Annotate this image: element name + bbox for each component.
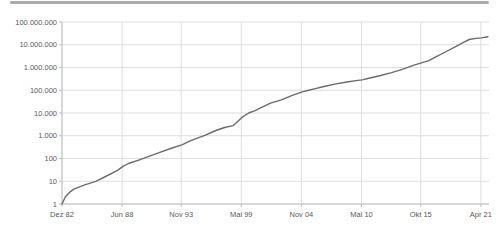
y-tick-label: 10 (49, 177, 57, 186)
y-tick-label: 10.000 (34, 109, 57, 118)
x-tick-label: Okt 15 (410, 210, 432, 219)
x-tick-label: Apr 21 (470, 210, 492, 219)
data-series-line (62, 37, 488, 204)
y-tick-label: 100.000 (30, 86, 57, 95)
x-tick-label: Nov 93 (169, 210, 193, 219)
x-tick-label: Jun 88 (111, 210, 134, 219)
log-line-chart: 1101001.00010.000100.0001.000.00010.000.… (0, 0, 501, 230)
x-tick-label: Nov 04 (290, 210, 314, 219)
gridlines (62, 22, 489, 204)
y-tick-label: 1.000 (38, 131, 57, 140)
chart-canvas: 1101001.00010.000100.0001.000.00010.000.… (0, 0, 501, 230)
y-tick-label: 100 (44, 154, 57, 163)
y-tick-label: 100.000.000 (15, 18, 57, 27)
y-tick-label: 10.000.000 (19, 40, 57, 49)
y-tick-label: 1 (53, 200, 57, 209)
x-tick-label: Mai 99 (230, 210, 253, 219)
y-tick-label: 1.000.000 (24, 63, 57, 72)
x-tick-label: Dez 82 (50, 210, 74, 219)
x-tick-label: Mai 10 (350, 210, 373, 219)
y-axis-labels: 1101001.00010.000100.0001.000.00010.000.… (15, 18, 57, 209)
x-axis-labels: Dez 82Jun 88Nov 93Mai 99Nov 04Mai 10Okt … (50, 210, 492, 219)
